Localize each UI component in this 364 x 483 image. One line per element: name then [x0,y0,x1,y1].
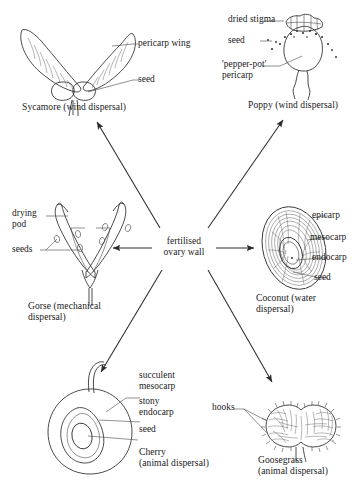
goosegrass-caption: Goosegrass (animal dispersal) [258,454,328,477]
goosegrass-leader-hooks-2 [244,409,268,434]
goosegrass-illustration [0,0,364,483]
goosegrass-label-hooks: hooks [212,402,235,413]
goosegrass-leader-hooks-1 [234,409,267,421]
dispersal-diagram: pericarp wing seed Sycamore (wind disper… [0,0,364,483]
